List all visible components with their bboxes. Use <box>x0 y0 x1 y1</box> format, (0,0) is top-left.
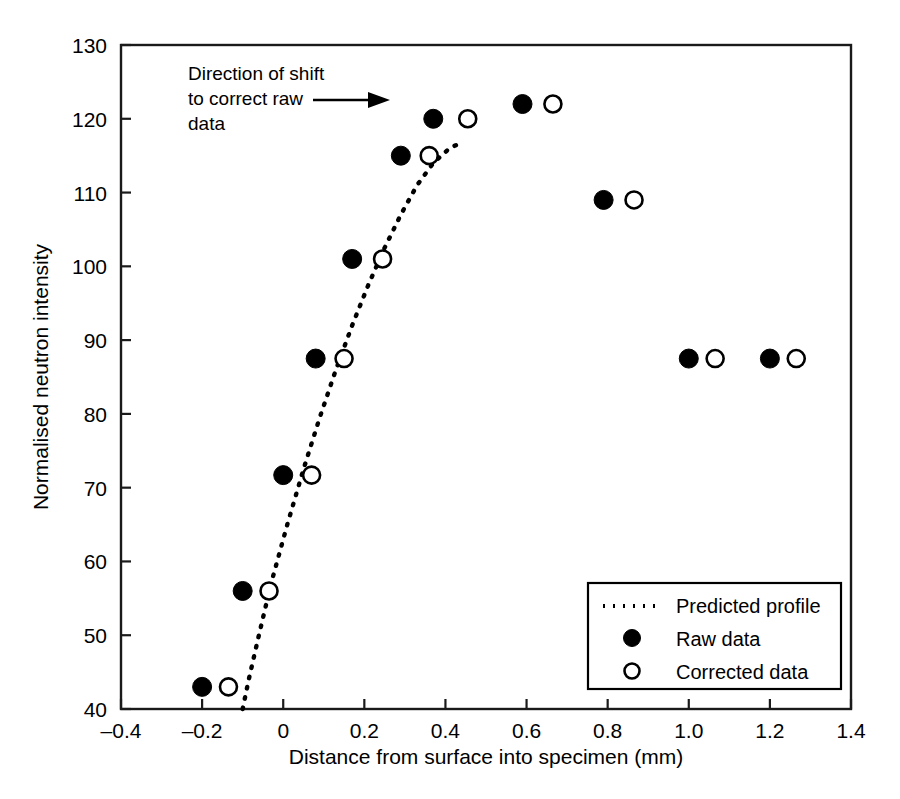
corrected-data-point <box>220 678 237 695</box>
x-tick-label: 0.6 <box>512 719 541 742</box>
raw-data-point <box>391 146 410 165</box>
x-tick-label: 0 <box>277 719 289 742</box>
open-circle-icon <box>625 664 640 679</box>
raw-data-point <box>679 349 698 368</box>
y-tick-label: 50 <box>84 624 107 647</box>
filled-circle-icon <box>624 630 641 647</box>
x-tick-label: 0.4 <box>431 719 461 742</box>
x-axis-title: Distance from surface into specimen (mm) <box>289 745 683 768</box>
raw-data-point <box>594 190 613 209</box>
y-tick-label: 80 <box>84 403 107 426</box>
corrected-data-point <box>544 96 561 113</box>
x-tick-label: 1.0 <box>674 719 703 742</box>
y-tick-label: 60 <box>84 550 107 573</box>
corrected-data-point <box>788 350 805 367</box>
raw-data-point <box>274 466 293 485</box>
annotation-line-3: data <box>188 113 225 134</box>
y-axis-title: Normalised neutron intensity <box>29 243 52 510</box>
annotation-line-2: to correct raw <box>188 88 303 109</box>
corrected-data-point <box>374 250 391 267</box>
corrected-data-point <box>336 350 353 367</box>
y-tick-label: 90 <box>84 329 107 352</box>
neutron-intensity-scatter-chart: –0.4–0.200.20.40.60.81.01.21.4 405060708… <box>0 0 900 799</box>
y-tick-label: 70 <box>84 477 107 500</box>
corrected-data-point <box>261 582 278 599</box>
y-tick-label: 100 <box>72 255 107 278</box>
x-tick-label: 1.2 <box>755 719 784 742</box>
legend-label-corrected-data: Corrected data <box>676 661 809 683</box>
raw-data-point <box>424 109 443 128</box>
raw-data-point <box>306 349 325 368</box>
y-tick-label: 120 <box>72 108 107 131</box>
raw-data-point <box>193 677 212 696</box>
x-tick-label: 1.4 <box>836 719 866 742</box>
y-tick-label: 40 <box>84 698 107 721</box>
y-tick-label: 110 <box>74 182 107 205</box>
y-tick-label: 130 <box>72 34 107 57</box>
raw-data-point <box>760 349 779 368</box>
corrected-data-point <box>421 147 438 164</box>
figure-container: –0.4–0.200.20.40.60.81.01.21.4 405060708… <box>0 0 900 799</box>
x-tick-label: 0.8 <box>593 719 622 742</box>
chart-legend: Predicted profile Raw data Corrected dat… <box>588 583 841 689</box>
annotation-line-1: Direction of shift <box>188 63 325 84</box>
x-tick-label: –0.2 <box>182 719 223 742</box>
corrected-data-point <box>303 467 320 484</box>
legend-label-raw-data: Raw data <box>676 628 761 650</box>
raw-data-point <box>343 249 362 268</box>
corrected-data-point <box>459 110 476 127</box>
corrected-data-point <box>707 350 724 367</box>
raw-data-point <box>513 95 532 114</box>
corrected-data-point <box>626 191 643 208</box>
legend-label-predicted-profile: Predicted profile <box>676 595 821 617</box>
x-tick-label: 0.2 <box>350 719 379 742</box>
raw-data-point <box>233 581 252 600</box>
x-tick-label: –0.4 <box>101 719 142 742</box>
